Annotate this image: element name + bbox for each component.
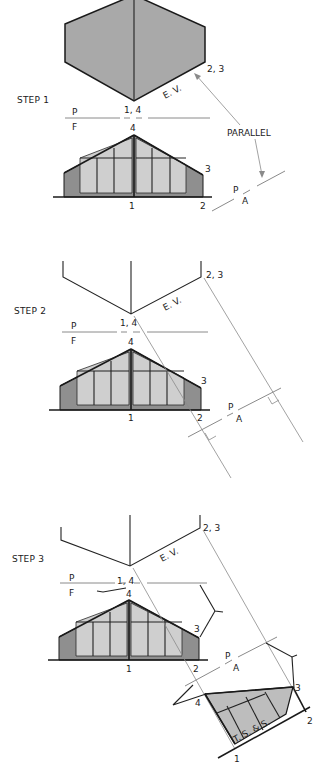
auxiliary-view-diagram: 2, 3 E. V. 1, 4 STEP 1 P F 4 3 1 xyxy=(0,0,321,764)
step2-label-front-1: 1 xyxy=(128,413,134,423)
step3-title: STEP 3 xyxy=(12,554,44,564)
step3-label-front-4: 4 xyxy=(126,589,132,599)
step3-label-aux-a: A xyxy=(233,663,240,673)
right-angle-icon xyxy=(205,433,216,440)
step2-title: STEP 2 xyxy=(14,306,46,316)
step1-label-1-4: 1, 4 xyxy=(124,105,141,115)
step2-label-front-2: 2 xyxy=(197,413,203,423)
divider-mark-icon xyxy=(97,588,126,592)
step2-label-1-4: 1, 4 xyxy=(120,318,137,328)
step3-label-2-3: 2, 3 xyxy=(203,523,220,533)
step2-label-aux-a: A xyxy=(236,414,243,424)
step1-fold-line-pa xyxy=(212,199,234,211)
step1-label-p: P xyxy=(72,107,78,117)
step2-label-f: F xyxy=(71,336,76,346)
step1-label-front-2: 2 xyxy=(200,201,206,211)
step2-top-view xyxy=(63,261,201,314)
step2-label-front-4: 4 xyxy=(128,337,134,347)
step1-label-2-3: 2, 3 xyxy=(207,64,224,74)
step1-label-f: F xyxy=(72,122,77,132)
step2-label-2-3: 2, 3 xyxy=(206,270,223,280)
step1-title: STEP 1 xyxy=(17,95,49,105)
step3-label-front-2: 2 xyxy=(193,664,199,674)
step3-label-f: F xyxy=(69,588,74,598)
step2-projector-2-3 xyxy=(204,278,303,442)
step2-front-view xyxy=(49,349,210,410)
step2-label-p: P xyxy=(71,321,77,331)
step1-parallel-label: PARALLEL xyxy=(227,128,271,138)
step1-label-front-4: 4 xyxy=(130,123,136,133)
step3-label-front-3: 3 xyxy=(194,624,200,634)
step3-front-view xyxy=(48,600,208,660)
step1-label-ev: E. V. xyxy=(161,83,183,101)
step3-label-p: P xyxy=(69,573,75,583)
step3-label-aux-2: 2 xyxy=(307,716,313,726)
step3-label-front-1: 1 xyxy=(126,664,132,674)
step1-label-aux-a: A xyxy=(242,196,249,206)
step2-label-ev: E. V. xyxy=(161,295,183,313)
step3-label-aux-4: 4 xyxy=(195,698,201,708)
step1-parallel-leader-bottom xyxy=(255,139,262,175)
step1-top-view-roof xyxy=(65,0,205,101)
step3-label-1-4: 1, 4 xyxy=(117,576,134,586)
step1-group: 2, 3 E. V. 1, 4 STEP 1 P F 4 3 1 xyxy=(17,0,285,211)
arrowhead-icon xyxy=(259,171,265,178)
step3-label-aux-p: P xyxy=(225,651,231,661)
step3-label-aux-1: 1 xyxy=(234,754,240,764)
right-angle-icon xyxy=(268,397,279,404)
step1-front-view xyxy=(53,135,212,197)
step2-label-front-3: 3 xyxy=(201,376,207,386)
step2-label-aux-p: P xyxy=(228,402,234,412)
step1-label-front-1: 1 xyxy=(129,201,135,211)
step3-projector-2-3 xyxy=(203,530,306,712)
step1-label-front-3: 3 xyxy=(205,164,211,174)
step1-label-aux-p: P xyxy=(233,185,239,195)
step3-label-aux-3: 3 xyxy=(295,683,301,693)
step3-group: 2, 3 E. V. 1, 4 STEP 3 P F 4 xyxy=(12,515,313,764)
step2-group: 2, 3 E. V. 1, 4 STEP 2 P F 4 3 1 2 xyxy=(14,261,303,478)
divider-mark-icon xyxy=(200,585,223,612)
